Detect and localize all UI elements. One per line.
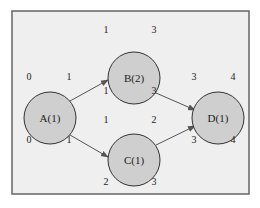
node-b-latest-start: 1 (104, 85, 109, 96)
node-d-earliest-finish: 4 (231, 71, 236, 82)
node-c-latest-finish: 3 (152, 176, 157, 187)
node-b-earliest-finish: 3 (152, 24, 157, 35)
node-d-earliest-start: 3 (192, 71, 197, 82)
node-c-earliest-start: 1 (104, 114, 109, 125)
node-d-label: D(1) (208, 112, 229, 125)
node-d-latest-start: 3 (192, 134, 197, 145)
node-c-label: C(1) (124, 154, 145, 167)
node-a-latest-finish: 1 (67, 134, 72, 145)
node-a-label: A(1) (40, 112, 61, 125)
node-c-latest-start: 2 (104, 176, 109, 187)
node-a-earliest-start: 0 (27, 71, 32, 82)
node-b-earliest-start: 1 (104, 24, 109, 35)
node-d-latest-finish: 4 (231, 134, 236, 145)
node-c-earliest-finish: 2 (152, 114, 157, 125)
network-diagram: A(1) 0 1 0 1 B(2) 1 3 1 3 C(1) 1 2 2 3 D… (0, 0, 260, 208)
node-a-latest-start: 0 (27, 134, 32, 145)
node-b-latest-finish: 3 (152, 85, 157, 96)
node-b-label: B(2) (124, 72, 145, 85)
node-a-earliest-finish: 1 (67, 71, 72, 82)
